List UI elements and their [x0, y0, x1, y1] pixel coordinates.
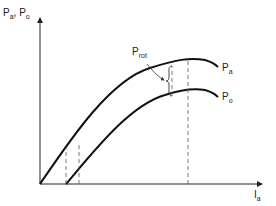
curve-lower: [66, 89, 218, 184]
curve-lower-label: Po: [222, 91, 233, 104]
y-axis-label: Pa, Po: [3, 7, 30, 20]
annotation-label: Prot: [132, 46, 147, 59]
brace-icon: [166, 66, 172, 96]
curve-upper-label: Pa: [222, 62, 233, 75]
power-vs-current-diagram: Pa, Po Ia Pa Po Prot: [0, 0, 276, 206]
x-axis-label: Ia: [254, 189, 261, 202]
curve-upper: [40, 59, 218, 184]
